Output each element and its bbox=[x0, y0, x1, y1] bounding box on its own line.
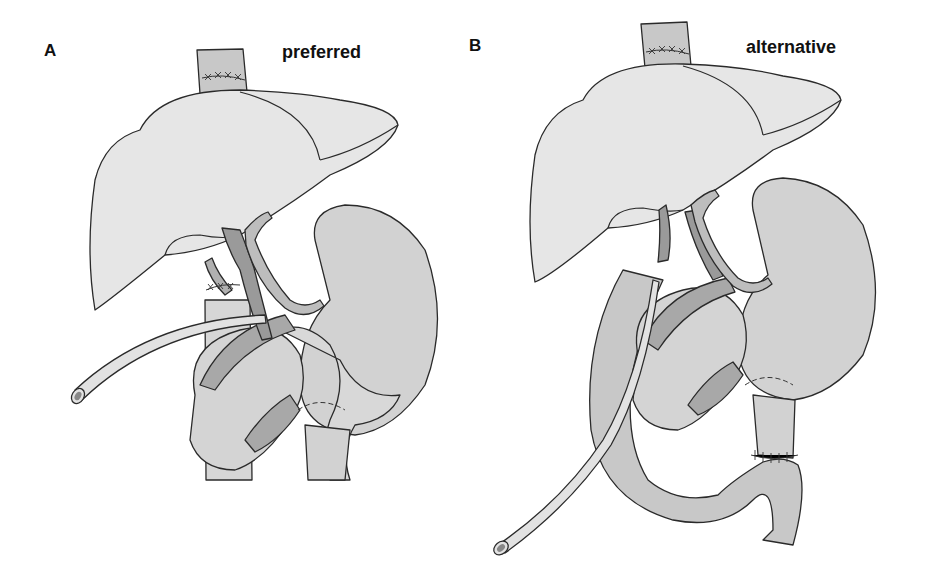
panel-a: A preferred bbox=[0, 0, 463, 572]
panel-b: B alternative bbox=[463, 0, 926, 572]
anatomy-diagram-a bbox=[0, 0, 463, 572]
anatomy-diagram-b bbox=[463, 0, 926, 572]
bile-duct bbox=[205, 258, 232, 295]
esophagus bbox=[197, 49, 247, 94]
bile-duct bbox=[658, 205, 670, 262]
esophagus bbox=[641, 22, 691, 68]
